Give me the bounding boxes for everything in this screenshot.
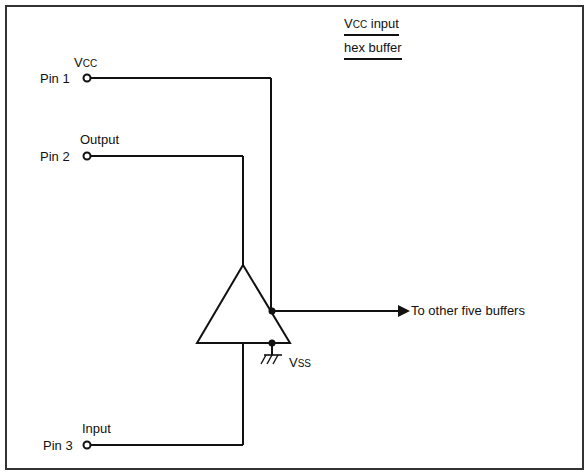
junction-dot bbox=[269, 308, 276, 315]
buffer-triangle bbox=[197, 265, 290, 343]
vcc-signal-label: VCC bbox=[74, 56, 97, 69]
output-signal-label: Output bbox=[80, 133, 119, 146]
pin2-label: Pin 2 bbox=[40, 150, 70, 163]
junction-dot bbox=[269, 340, 276, 347]
pin1-terminal bbox=[84, 75, 91, 82]
pin3-terminal bbox=[84, 442, 91, 449]
pin1-label: Pin 1 bbox=[40, 72, 70, 85]
output-arrow-label: To other five buffers bbox=[411, 304, 525, 317]
pin3-label: Pin 3 bbox=[43, 439, 73, 452]
arrow-head-icon bbox=[398, 305, 410, 317]
input-signal-label: Input bbox=[82, 422, 111, 435]
vss-label: VSS bbox=[289, 356, 311, 369]
title-line2: hex buffer bbox=[344, 41, 402, 60]
pin2-terminal bbox=[84, 153, 91, 160]
circuit-schematic bbox=[0, 0, 587, 474]
title-line1: VCC input bbox=[344, 17, 399, 36]
